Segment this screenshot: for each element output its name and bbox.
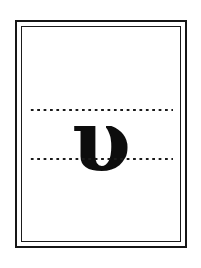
worksheet-page: υ — [0, 0, 201, 268]
greek-small-letter-upsilon-glyph: υ — [22, 89, 180, 193]
writing-area: υ — [22, 27, 180, 241]
baseline-guide-line — [29, 158, 173, 160]
